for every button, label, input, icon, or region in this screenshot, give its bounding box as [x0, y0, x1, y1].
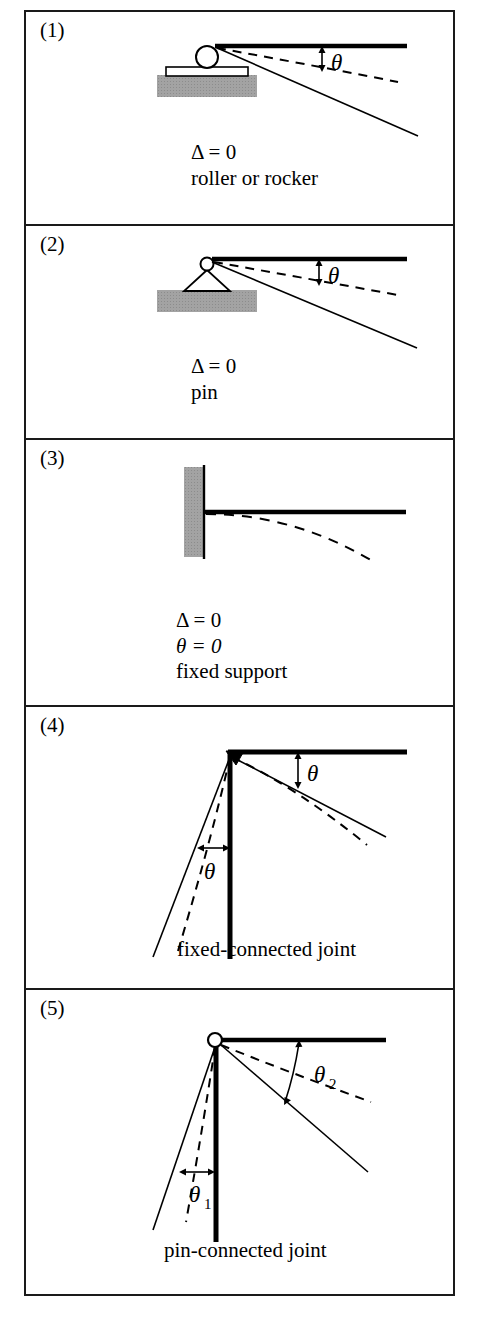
pin-support-diagram: θ: [26, 226, 457, 440]
deflected-beam-curve: [206, 514, 374, 562]
theta1-subscript: 1: [204, 1196, 212, 1212]
delta-condition: Δ = 0: [191, 354, 236, 380]
pin-circle: [201, 258, 214, 271]
deflected-beam-curve: [232, 757, 367, 845]
delta-condition: Δ = 0: [191, 140, 318, 166]
theta-label: θ: [331, 50, 342, 75]
theta1-angle-indicator: [179, 1169, 215, 1176]
theta2-angle-indicator: [284, 1040, 302, 1105]
joint-name: pin-connected joint: [164, 1238, 327, 1264]
panel-caption: Δ = 0 θ = 0 fixed support: [176, 608, 287, 685]
pin-triangle: [184, 270, 230, 291]
deflected-column-curve: [178, 757, 230, 951]
theta-label-beam: θ: [307, 761, 318, 786]
theta-angle-indicator-beam: [295, 752, 302, 789]
support-name: pin: [191, 380, 236, 406]
panel-caption: fixed-connected joint: [177, 937, 356, 963]
support-name: fixed support: [176, 659, 287, 685]
column-tangent-line: [153, 757, 230, 957]
panel-fixed-connected-joint: (4) θ: [26, 707, 453, 990]
theta-angle-indicator: [316, 259, 323, 286]
theta2-label: θ: [314, 1062, 325, 1087]
panel-caption: pin-connected joint: [164, 1238, 327, 1264]
theta-label-column: θ: [204, 859, 215, 884]
ground-block: [157, 290, 257, 312]
theta-label: θ: [328, 263, 339, 288]
supports-and-joints-figure: (1): [24, 10, 455, 1296]
theta-condition: θ = 0: [176, 634, 287, 660]
panel-roller-support: (1): [26, 12, 453, 226]
roller-circle: [196, 46, 218, 68]
delta-condition: Δ = 0: [176, 608, 287, 634]
theta2-subscript: 2: [329, 1076, 337, 1092]
theta-angle-indicator: [319, 46, 326, 72]
ground-block: [157, 75, 257, 97]
support-name: roller or rocker: [191, 166, 318, 192]
wall-block: [184, 467, 204, 557]
deflected-beam-curve: [221, 1045, 371, 1102]
roller-support-diagram: θ: [26, 12, 457, 226]
panel-caption: Δ = 0 pin: [191, 354, 236, 405]
panel-caption: Δ = 0 roller or rocker: [191, 140, 318, 191]
panel-pin-support: (2) θ: [26, 226, 453, 440]
panel-pin-connected-joint: (5) θ 2: [26, 990, 453, 1294]
joint-name: fixed-connected joint: [177, 937, 356, 963]
theta1-label: θ: [189, 1182, 200, 1207]
theta-angle-indicator-column: [197, 845, 230, 852]
panel-fixed-support: (3) Δ = 0 θ = 0 fixed support: [26, 440, 453, 707]
pin-joint-circle: [208, 1033, 222, 1047]
